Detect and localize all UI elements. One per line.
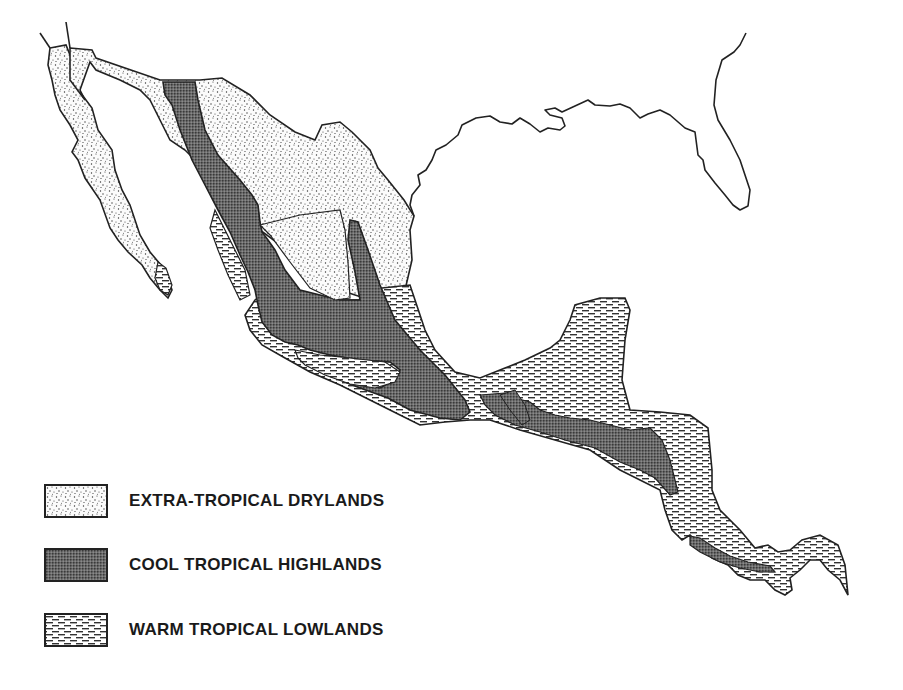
legend-label-lowlands: WARM TROPICAL LOWLANDS — [129, 620, 384, 640]
legend-item-highlands: COOL TROPICAL HIGHLANDS — [44, 548, 464, 584]
us-coastline — [40, 22, 750, 216]
legend-label-drylands: EXTRA-TROPICAL DRYLANDS — [129, 491, 384, 511]
drylands-swatch-icon — [44, 484, 108, 518]
legend-item-lowlands: WARM TROPICAL LOWLANDS — [44, 613, 464, 649]
lowlands-swatch-icon — [44, 613, 108, 647]
region-lowlands-baja-tip — [155, 262, 172, 295]
highlands-swatch-icon — [44, 548, 108, 582]
legend-item-drylands: EXTRA-TROPICAL DRYLANDS — [44, 484, 464, 520]
legend-label-highlands: COOL TROPICAL HIGHLANDS — [129, 555, 382, 575]
map-canvas — [0, 0, 903, 690]
